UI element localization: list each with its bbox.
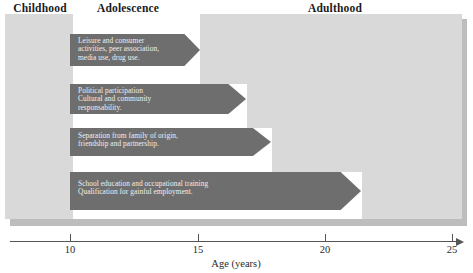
axis-tick-label-15: 15 — [193, 244, 204, 255]
axis-tick-label-25: 25 — [447, 244, 458, 255]
task-arrow-school-line-2: Qualification for gainful employment. — [78, 188, 361, 196]
phase-label-adolescence: Adolescence — [97, 2, 159, 14]
axis-title: Age (years) — [211, 258, 260, 269]
axis-tick-20 — [325, 234, 326, 242]
phase-label-childhood: Childhood — [13, 2, 67, 14]
adulthood-panel-segment-top — [200, 14, 462, 84]
task-arrow-separation-from-family: Separation from family of origin, friend… — [70, 128, 271, 156]
childhood-panel — [5, 14, 73, 219]
panel-drop-shadow — [10, 219, 467, 226]
phase-label-adulthood: Adulthood — [308, 2, 362, 14]
adulthood-panel-segment-third — [272, 128, 462, 172]
developmental-tasks-diagram: Childhood Adolescence Adulthood Leisure … — [0, 0, 473, 273]
adulthood-panel-segment-bottom — [362, 172, 462, 219]
axis-tick-label-10: 10 — [65, 244, 76, 255]
task-arrow-school-education: School education and occupational traini… — [70, 172, 361, 210]
task-arrow-leisure: Leisure and consumer activities, peer as… — [70, 34, 200, 66]
task-arrow-leisure-line-3: media use, drug use. — [78, 54, 200, 62]
axis-tick-25 — [452, 234, 453, 242]
adulthood-panel-segment-second — [247, 84, 462, 128]
task-arrow-political-participation: Political participation Cultural and com… — [70, 84, 246, 114]
task-arrow-political-line-3: responsability. — [78, 104, 246, 112]
axis-tick-15 — [198, 234, 199, 242]
age-axis-line — [10, 241, 460, 242]
task-arrow-separation-line-2: friendship and partnership. — [78, 140, 271, 148]
axis-tick-label-20: 20 — [320, 244, 331, 255]
panel-right-shadow — [462, 19, 467, 219]
axis-tick-10 — [70, 234, 71, 242]
